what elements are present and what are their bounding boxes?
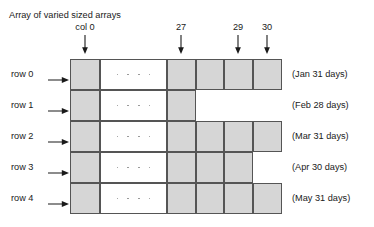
array-cell bbox=[70, 59, 100, 90]
array-cell bbox=[70, 90, 100, 121]
array-of-arrays-diagram: Array of varied sized arrays col 0272930… bbox=[0, 0, 374, 227]
array-cell bbox=[196, 183, 224, 214]
arrow-down-icon bbox=[177, 35, 186, 54]
array-cell bbox=[196, 59, 224, 90]
ellipsis-cell bbox=[100, 90, 167, 121]
array-cell bbox=[70, 183, 100, 214]
array-cell bbox=[224, 152, 253, 183]
ellipsis-dot bbox=[149, 198, 151, 200]
month-caption: (May 31 days) bbox=[292, 194, 350, 203]
ellipsis-dot bbox=[149, 136, 151, 138]
month-caption: (Apr 30 days) bbox=[292, 163, 347, 172]
array-cell bbox=[167, 152, 196, 183]
ellipsis-dot bbox=[138, 105, 140, 107]
ellipsis-dot bbox=[117, 136, 119, 138]
ellipsis-dot bbox=[127, 74, 129, 76]
arrow-right-icon bbox=[48, 163, 69, 172]
array-cell bbox=[167, 59, 196, 90]
array-cell bbox=[253, 59, 282, 90]
arrow-right-icon bbox=[48, 101, 69, 110]
column-header-label: 27 bbox=[176, 23, 186, 32]
column-header-label: 29 bbox=[233, 23, 243, 32]
ellipsis-dot bbox=[138, 198, 140, 200]
ellipsis-dot bbox=[117, 167, 119, 169]
ellipsis-dot bbox=[127, 105, 129, 107]
array-cell bbox=[196, 152, 224, 183]
arrow-right-icon bbox=[48, 132, 69, 141]
ellipsis-cell bbox=[100, 121, 167, 152]
diagram-title: Array of varied sized arrays bbox=[9, 11, 121, 20]
ellipsis-cell bbox=[100, 59, 167, 90]
ellipsis-dot bbox=[138, 167, 140, 169]
ellipsis-dot bbox=[127, 198, 129, 200]
arrow-down-icon bbox=[234, 35, 243, 54]
arrow-right-icon bbox=[48, 70, 69, 79]
column-header-label: col 0 bbox=[75, 23, 94, 32]
month-caption: (Feb 28 days) bbox=[292, 101, 349, 110]
array-cell bbox=[253, 183, 282, 214]
array-cell bbox=[224, 183, 253, 214]
row-label: row 4 bbox=[11, 194, 33, 203]
array-cell bbox=[224, 121, 253, 152]
arrow-down-icon bbox=[81, 35, 90, 54]
ellipsis-dot bbox=[127, 167, 129, 169]
ellipsis-cell bbox=[100, 152, 167, 183]
ellipsis-dot bbox=[127, 136, 129, 138]
array-cell bbox=[167, 90, 196, 121]
month-caption: (Mar 31 days) bbox=[292, 132, 349, 141]
column-header-label: 30 bbox=[262, 23, 272, 32]
array-cell bbox=[224, 59, 253, 90]
row-label: row 2 bbox=[11, 132, 33, 141]
array-cell bbox=[167, 121, 196, 152]
ellipsis-dot bbox=[117, 105, 119, 107]
ellipsis-dot bbox=[138, 74, 140, 76]
ellipsis-dot bbox=[149, 74, 151, 76]
row-label: row 0 bbox=[11, 70, 33, 79]
array-cell bbox=[167, 183, 196, 214]
ellipsis-cell bbox=[100, 183, 167, 214]
row-label: row 1 bbox=[11, 101, 33, 110]
array-cell bbox=[196, 121, 224, 152]
ellipsis-dot bbox=[149, 105, 151, 107]
array-cell bbox=[253, 121, 282, 152]
month-caption: (Jan 31 days) bbox=[292, 70, 348, 79]
ellipsis-dot bbox=[138, 136, 140, 138]
row-label: row 3 bbox=[11, 163, 33, 172]
ellipsis-dot bbox=[149, 167, 151, 169]
array-cell bbox=[70, 152, 100, 183]
arrow-down-icon bbox=[263, 35, 272, 54]
arrow-right-icon bbox=[48, 194, 69, 203]
array-cell bbox=[70, 121, 100, 152]
ellipsis-dot bbox=[117, 198, 119, 200]
ellipsis-dot bbox=[117, 74, 119, 76]
